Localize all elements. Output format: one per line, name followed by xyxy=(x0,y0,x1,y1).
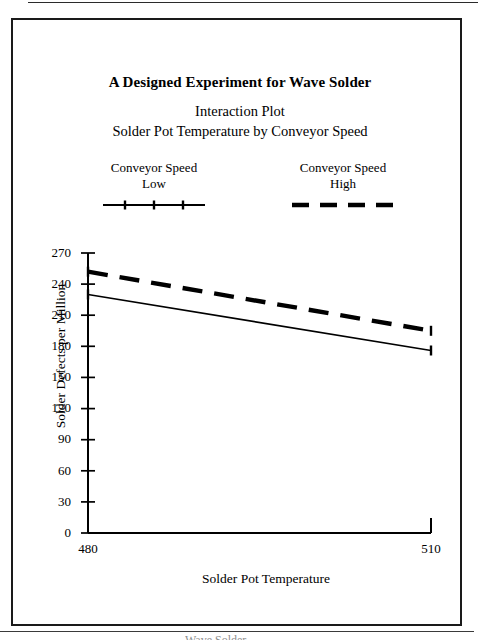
x-tick-label-480: 480 xyxy=(68,542,108,555)
y-tick-label-60: 60 xyxy=(35,464,71,477)
plot-canvas xyxy=(11,18,462,578)
y-tick-label-270: 270 xyxy=(35,246,71,259)
y-tick-label-30: 30 xyxy=(35,495,71,508)
y-tick-label-0: 0 xyxy=(35,526,71,539)
x-axis-ticks xyxy=(88,518,431,533)
series-line-conveyor-speed-high xyxy=(88,267,431,336)
page-bottom-edge-line xyxy=(0,631,474,632)
y-axis-title: Solder Defects per Million xyxy=(53,276,69,436)
x-axis-title: Solder Pot Temperature xyxy=(91,571,441,587)
page-bottom-cropped-text: Wave Solder xyxy=(185,633,445,640)
page-top-edge-line xyxy=(28,2,478,3)
plot-area: 270 240 210 180 150 120 90 60 30 0 480 5… xyxy=(11,18,462,626)
x-tick-label-510: 510 xyxy=(411,542,451,555)
scanned-page: A Designed Experiment for Wave Solder In… xyxy=(0,0,480,640)
